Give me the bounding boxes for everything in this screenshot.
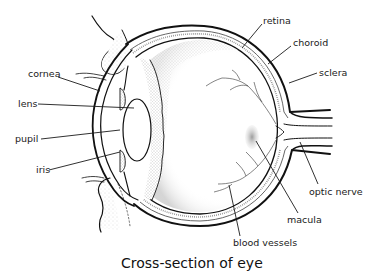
leader-pupil [41,130,120,139]
label-cornea: cornea [28,68,60,79]
label-macula: macula [287,214,322,225]
eye-cross-section-diagram: retina choroid sclera cornea lens pupil … [0,0,371,277]
label-pupil: pupil [15,133,38,144]
label-iris: iris [36,164,50,175]
label-lens: lens [18,98,38,109]
leader-sclera [289,73,317,83]
label-sclera: sclera [319,67,347,78]
lower-eyelid [82,177,130,233]
upper-eyelid [76,16,130,80]
leader-optic-nerve [300,142,318,184]
optic-nerve [276,112,332,150]
label-blood-vessels: blood vessels [233,237,297,248]
macula-spot [245,125,259,149]
leader-cornea [58,77,100,91]
label-retina: retina [263,15,291,26]
label-choroid: choroid [293,37,328,48]
label-optic-nerve: optic nerve [309,186,363,197]
lens [123,99,151,161]
diagram-title: Cross-section of eye [121,255,263,271]
leader-choroid [268,46,291,64]
